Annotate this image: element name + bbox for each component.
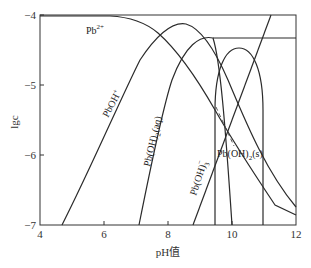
curve-pb2plus: [40, 16, 296, 215]
x-tick-label: 4: [37, 228, 43, 240]
curve-pboh-plus: [62, 24, 296, 225]
x-axis: 4 6 8 10 12 pH值: [37, 221, 301, 258]
label-pboh2-s: Pb(OH)2(s): [217, 148, 263, 162]
y-tick-label: −7: [24, 219, 36, 231]
curve-pboh3-minus: [193, 15, 271, 225]
y-tick-label: −6: [24, 149, 36, 161]
y-axis-label: lgc: [8, 115, 20, 129]
x-tick-label: 12: [291, 228, 302, 240]
label-pboh3-minus: Pb(OH)3−: [186, 159, 212, 198]
y-tick-label: −5: [24, 79, 36, 91]
label-pboh2-aq: Pb(OH)2(aq): [141, 115, 166, 168]
plot-frame: [40, 15, 296, 225]
x-tick-label: 10: [227, 228, 239, 240]
y-tick-label: −4: [24, 9, 36, 21]
label-pb2plus: Pb2+: [86, 23, 104, 36]
x-tick-label: 6: [101, 228, 107, 240]
chart-svg: −4 −5 −6 −7 lgc 4 6 8 10 12 pH值 Pb2+ PbO…: [0, 0, 311, 268]
x-tick-label: 8: [165, 228, 171, 240]
curve-pboh2-s: [215, 48, 263, 225]
x-axis-label: pH值: [156, 246, 180, 258]
y-axis: −4 −5 −6 −7 lgc: [8, 9, 44, 231]
chart: −4 −5 −6 −7 lgc 4 6 8 10 12 pH值 Pb2+ PbO…: [0, 0, 311, 268]
